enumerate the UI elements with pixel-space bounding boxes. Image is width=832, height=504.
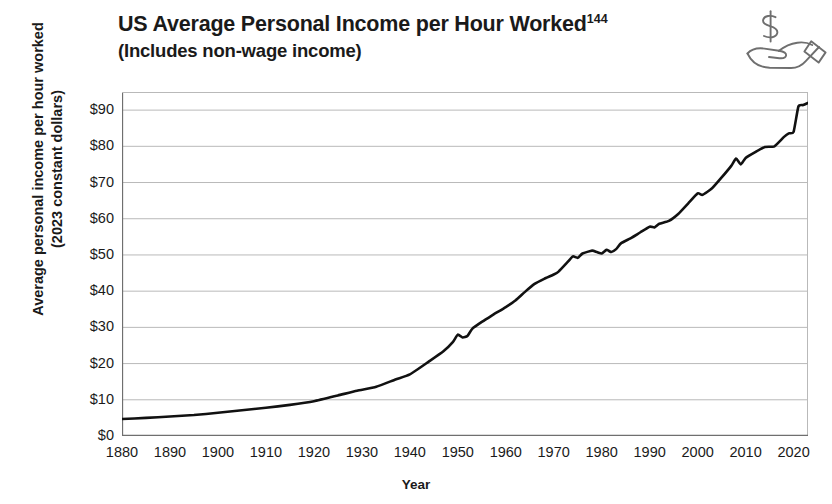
y-tick-label: $20 (54, 355, 114, 371)
x-axis-tick-labels: 1880189019001910192019301940195019601970… (122, 444, 808, 466)
y-tick-label: $40 (54, 282, 114, 298)
y-tick-label: $0 (54, 427, 114, 443)
y-tick-label: $90 (54, 101, 114, 117)
chart-title: US Average Personal Income per Hour Work… (118, 6, 738, 38)
chart-subtitle: (Includes non-wage income) (118, 38, 738, 63)
title-block: US Average Personal Income per Hour Work… (118, 6, 738, 63)
y-tick-label: $10 (54, 391, 114, 407)
y-tick-label: $50 (54, 246, 114, 262)
axis-frame (122, 92, 808, 436)
x-axis-ticks (122, 110, 803, 436)
plot-area (122, 92, 808, 436)
y-tick-label: $80 (54, 137, 114, 153)
chart-figure: US Average Personal Income per Hour Work… (0, 0, 832, 504)
plot-svg (122, 92, 808, 436)
y-tick-label: $60 (54, 210, 114, 226)
x-tick-label: 2020 (764, 444, 824, 460)
data-series-line (122, 103, 808, 419)
y-tick-label: $70 (54, 174, 114, 190)
gridlines (122, 110, 808, 436)
hand-holding-dollar-icon (745, 4, 831, 78)
y-axis-title-line1: Average personal income per hour worked (29, 0, 48, 359)
y-axis-tick-labels: $0$10$20$30$40$50$60$70$80$90 (50, 92, 114, 436)
chart-title-text: US Average Personal Income per Hour Work… (118, 12, 587, 36)
y-tick-label: $30 (54, 318, 114, 334)
chart-title-footnote: 144 (587, 12, 608, 26)
x-axis-title: Year (0, 477, 832, 492)
